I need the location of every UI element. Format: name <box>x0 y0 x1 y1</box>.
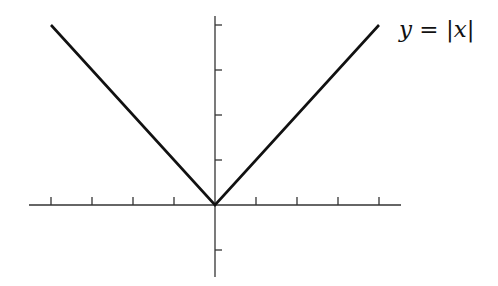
abs-value-chart <box>0 0 498 286</box>
label-bar-close: | <box>467 16 475 42</box>
label-y: y <box>399 16 412 42</box>
label-bar-open: | <box>446 16 454 42</box>
equation-label: y = |x| <box>399 18 474 41</box>
axes <box>29 16 401 277</box>
label-equals: = <box>412 16 446 42</box>
label-x: x <box>454 16 467 42</box>
